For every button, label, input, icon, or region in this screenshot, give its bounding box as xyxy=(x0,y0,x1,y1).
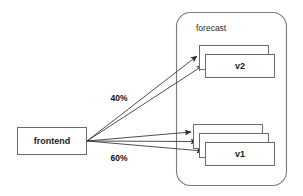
v1-label: v1 xyxy=(235,149,245,159)
edge-frontend-to-v1-mid xyxy=(87,141,197,142)
edge-label-60-percent: 60% xyxy=(110,153,127,163)
edge-labels-group: 40% 60% xyxy=(110,93,127,163)
node-v2[interactable]: v2 xyxy=(200,46,275,78)
forecast-label: forecast xyxy=(196,23,227,33)
node-v1[interactable]: v1 xyxy=(194,125,275,166)
v2-label: v2 xyxy=(235,61,245,71)
edge-label-40-percent: 40% xyxy=(110,93,127,103)
node-frontend[interactable]: frontend xyxy=(18,128,87,155)
diagram-svg: forecast frontend v2 v1 xyxy=(0,0,303,196)
diagram-canvas: forecast frontend v2 v1 xyxy=(0,0,303,196)
frontend-label: frontend xyxy=(34,136,71,146)
edge-frontend-to-v1-back xyxy=(87,132,191,141)
